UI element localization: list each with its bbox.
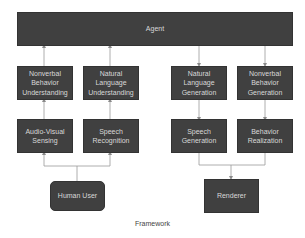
nonverbal-generation-node: Nonverbal Behavior Generation: [237, 66, 293, 100]
speech-recognition-node: Speech Recognition: [83, 119, 139, 153]
speech-recognition-label: Speech Recognition: [84, 127, 138, 146]
renderer-node: Renderer: [204, 179, 259, 213]
nonverbal-understanding-label: Nonverbal Behavior Understanding: [18, 69, 72, 98]
human-user-label: Human User: [56, 191, 99, 201]
nonverbal-understanding-node: Nonverbal Behavior Understanding: [17, 66, 73, 100]
human-user-node: Human User: [50, 181, 105, 211]
nl-understanding-node: Natural Language Understanding: [83, 66, 139, 100]
behavior-realization-node: Behavior Realization: [237, 119, 293, 153]
av-sensing-node: Audio-Visual Sensing: [17, 119, 73, 153]
figure-caption: Framework: [0, 220, 305, 227]
behavior-realization-label: Behavior Realization: [238, 127, 292, 146]
speech-generation-label: Speech Generation: [172, 127, 226, 146]
speech-generation-node: Speech Generation: [171, 119, 227, 153]
agent-label: Agent: [144, 24, 166, 34]
nl-generation-node: Natural Language Generation: [171, 66, 227, 100]
nonverbal-generation-label: Nonverbal Behavior Generation: [238, 69, 292, 98]
nl-generation-label: Natural Language Generation: [172, 69, 226, 98]
agent-node: Agent: [17, 12, 293, 46]
renderer-label: Renderer: [215, 191, 248, 201]
av-sensing-label: Audio-Visual Sensing: [18, 127, 72, 146]
nl-understanding-label: Natural Language Understanding: [84, 69, 138, 98]
